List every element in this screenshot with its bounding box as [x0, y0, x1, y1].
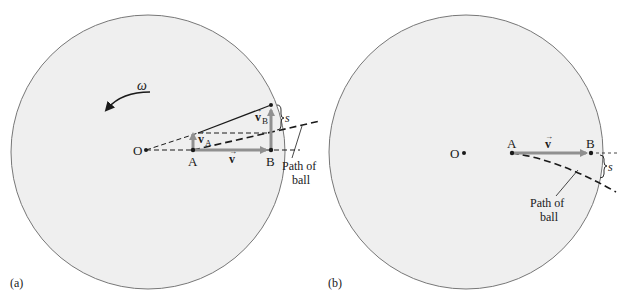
- label-vA-arrow: →: [197, 127, 205, 136]
- panel-a: ω O A B v → v A → v B → s: [10, 15, 320, 290]
- point-O: [144, 148, 148, 152]
- path-leader-line: [292, 126, 302, 158]
- label-path-b-line2: ball: [540, 210, 559, 224]
- label-B: B: [266, 154, 275, 169]
- label-v-b-arrow: →: [545, 132, 553, 141]
- caption-a: (a): [10, 276, 23, 290]
- point-B-b: [589, 151, 593, 155]
- label-path-line2: ball: [292, 173, 311, 187]
- label-path-b-line1: Path of: [530, 196, 564, 210]
- label-path-line1: Path of: [282, 159, 316, 173]
- omega-label: ω: [137, 78, 147, 93]
- point-A-b: [510, 151, 514, 155]
- label-vB-sub: B: [262, 116, 268, 126]
- label-A-b: A: [507, 136, 517, 151]
- label-A: A: [188, 154, 198, 169]
- label-O-b: O: [450, 146, 459, 161]
- label-B-b: B: [586, 136, 595, 151]
- label-vA-sub: A: [205, 138, 212, 148]
- panel-b: O A B v → s Path of ball (b): [328, 15, 620, 290]
- label-vB-arrow: →: [254, 105, 262, 114]
- point-O-b: [462, 151, 466, 155]
- rotating-disk-a: [11, 15, 285, 289]
- label-O: O: [133, 143, 142, 158]
- point-B-rotated: [269, 103, 273, 107]
- label-s: s: [285, 111, 290, 125]
- point-B: [269, 148, 273, 152]
- label-s-b: s: [608, 160, 613, 174]
- rotating-platform-diagram: ω O A B v → v A → v B → s: [0, 0, 622, 304]
- label-v-arrow: →: [229, 147, 237, 156]
- point-A: [191, 148, 195, 152]
- caption-b: (b): [328, 276, 342, 290]
